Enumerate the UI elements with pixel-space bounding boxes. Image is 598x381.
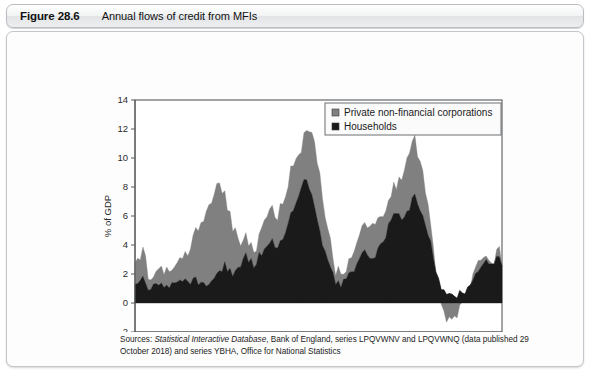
source-prefix: Sources: [120, 335, 154, 344]
legend-swatch [332, 123, 339, 130]
y-axis-title: % of GDP [102, 195, 113, 237]
y-tick-label: 12 [117, 123, 128, 134]
figure-header: Figure 28.6 Annual flows of credit from … [6, 4, 584, 28]
figure-body: -202468101214 19701975198019851990199520… [6, 31, 584, 367]
figure-number: Figure 28.6 [20, 10, 80, 22]
y-tick-label: 2 [123, 268, 128, 279]
legend-label: Private non-financial corporations [344, 107, 492, 118]
y-tick-label: 10 [117, 152, 128, 163]
chart-legend: Private non-financial corporationsHouseh… [325, 103, 501, 135]
y-tick-label: 6 [123, 210, 128, 221]
source-title: Statistical Interactive Database [154, 335, 266, 344]
y-tick-label: 4 [123, 239, 128, 250]
legend-label: Households [344, 121, 397, 132]
y-tick-label: -2 [120, 326, 128, 332]
y-tick-label: 14 [117, 94, 128, 105]
chart-svg: -202468101214 19701975198019851990199520… [7, 32, 583, 332]
y-axis: -202468101214 [117, 94, 135, 332]
figure-card: Figure 28.6 Annual flows of credit from … [6, 4, 584, 370]
legend-swatch [332, 109, 339, 116]
y-tick-label: 0 [123, 297, 128, 308]
y-tick-label: 8 [123, 181, 128, 192]
figure-caption: Annual flows of credit from MFIs [102, 10, 258, 22]
source-note: Sources: Statistical Interactive Databas… [120, 334, 540, 357]
stacked-area-chart: -202468101214 19701975198019851990199520… [7, 32, 583, 332]
